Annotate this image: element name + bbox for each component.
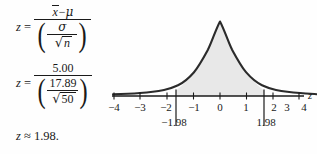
figure-root: z = x−μ ( σ (0, 0, 317, 154)
tick-label-2: 2 (271, 101, 277, 113)
formula-line-3: z ≈ 1.98. (16, 129, 62, 144)
tick-label--2: −2 (160, 101, 172, 113)
formula-line-3-value: 1.98. (34, 129, 62, 144)
formula-panel: z = x−μ ( σ (0, 0, 108, 154)
formula-line-3-lhs: z (16, 129, 24, 144)
tick-label--1: −1 (188, 101, 200, 113)
formula-line-2-lhs: z (16, 76, 24, 91)
shaded-area-between-critical-values (176, 22, 264, 97)
tick-label--3: −3 (134, 101, 146, 113)
formula-line-2-fraction: 5.00 ( 17.89 √ 50 (34, 62, 92, 105)
formula-line-2-numerator: 5.00 (50, 62, 75, 75)
x-axis-name-z: z (307, 90, 312, 101)
formula-line-1-numerator: x−μ (50, 6, 76, 19)
tick-label-3: 3 (284, 101, 290, 113)
radical-group-2: √ 50 (51, 92, 74, 105)
formula-line-1: z = x−μ ( σ (16, 6, 91, 49)
tick-label-0: 0 (217, 101, 223, 113)
formula-line-2-relation: = (24, 76, 34, 91)
formula-line-1-denominator: ( σ √ n (34, 20, 91, 49)
tick-label--4: −4 (108, 101, 120, 113)
minus-symbol: − (59, 5, 66, 19)
sigma-term: σ (56, 21, 68, 34)
radical-icon: √ (55, 36, 63, 49)
left-paren-1: ( (38, 21, 46, 49)
sqrt-n-term: √ n (52, 35, 73, 49)
sigma-over-sqrt-n: σ √ n (47, 21, 77, 49)
denominator-paren-group-1: ( σ √ n (36, 21, 89, 49)
mu-symbol: μ (66, 5, 74, 19)
formula-line-2: z = 5.00 ( 17.89 √ 50 (16, 62, 92, 105)
critical-label-positive: 1.98 (256, 116, 276, 128)
sd-value-term: 17.89 (47, 77, 78, 90)
normal-curve-panel: −4 −3 −2 −1 0 1 2 3 4 z −1.98 1.98 (108, 0, 317, 154)
value-over-sqrt-50: 17.89 √ 50 (47, 77, 78, 105)
formula-line-2-denominator: ( 17.89 √ 50 ) (34, 76, 92, 105)
formula-line-3-relation: ≈ (24, 129, 34, 144)
sigma-symbol: σ (58, 20, 66, 34)
radicand-n: n (63, 37, 71, 49)
critical-label-negative: −1.98 (161, 116, 187, 128)
radical-group-1: √ n (54, 36, 71, 49)
formula-line-1-relation: = (24, 20, 34, 35)
tick-label-1: 1 (243, 101, 249, 113)
formula-line-1-fraction: x−μ ( σ √ (34, 6, 91, 49)
radicand-50: 50 (61, 93, 75, 105)
right-paren-2: ) (80, 77, 88, 105)
tick-label-4: 4 (301, 101, 307, 113)
sqrt-50-term: √ 50 (49, 91, 76, 105)
formula-line-1-lhs: z (16, 20, 24, 35)
left-paren-2: ( (38, 77, 46, 105)
radical-icon: √ (52, 92, 60, 105)
normal-distribution-chart: −4 −3 −2 −1 0 1 2 3 4 z −1.98 1.98 (108, 0, 317, 154)
denominator-paren-group-2: ( 17.89 √ 50 ) (36, 77, 90, 105)
x-bar-symbol: x (52, 6, 59, 18)
right-paren-1: ) (79, 21, 87, 49)
